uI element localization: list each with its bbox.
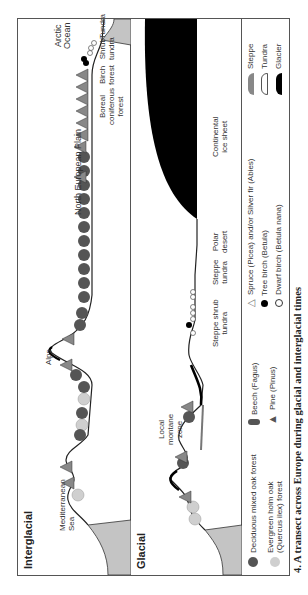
continental-ice-sheet bbox=[145, 19, 197, 219]
mediterranean-sea-shape bbox=[88, 520, 131, 575]
tundra-swatch bbox=[261, 73, 268, 95]
glacial-transect bbox=[131, 19, 242, 575]
label-shrub-tundra: Shrubtundra bbox=[98, 37, 116, 60]
legend-holm-oak: Evergreen holm oak(Quercus ilex) forest bbox=[266, 481, 284, 567]
deciduous-oak-icon bbox=[248, 557, 258, 567]
legend-pine: ▲ Pine (Pinus) bbox=[268, 367, 277, 425]
holm-oak-icon bbox=[270, 557, 280, 567]
spruce-icon: △ bbox=[246, 299, 255, 307]
label-steppe-tundra: Steppetundra bbox=[211, 260, 229, 285]
tree-birch-icon bbox=[261, 300, 268, 307]
tree-birch-markers bbox=[81, 56, 89, 66]
figure-frame: Interglacial bbox=[17, 18, 290, 576]
label-alps: Alps bbox=[44, 349, 53, 365]
glacial-sea-shape bbox=[205, 525, 242, 575]
legend-panel: Deciduous mixed oak forest Evergreen hol… bbox=[242, 19, 290, 575]
legend-dwarf-birch: Dwarf birch (Betula nana) bbox=[274, 204, 283, 307]
glacial-tree-birch bbox=[186, 322, 192, 328]
interglacial-panel: Interglacial bbox=[18, 19, 131, 575]
label-north-european-plain: North European Plain bbox=[74, 129, 83, 215]
legend-beech: Beech (Fagus) bbox=[248, 363, 260, 425]
label-continental-ice-sheet: Continentalice sheet bbox=[211, 117, 229, 157]
legend-glacier: Glacier bbox=[274, 44, 283, 95]
label-polar-desert: Polardesert bbox=[211, 231, 229, 253]
glacial-holm-oaks bbox=[187, 501, 201, 525]
pine-icon: ▲ bbox=[268, 414, 277, 425]
beech-icon bbox=[248, 419, 260, 425]
label-local-montane-zone: Localmontanezone bbox=[157, 414, 184, 445]
steppe-swatch bbox=[248, 73, 254, 95]
figure-rotated: Interglacial bbox=[0, 0, 308, 595]
glacial-terrain-line bbox=[170, 219, 205, 530]
dwarf-birch-icon bbox=[275, 299, 283, 307]
interglacial-terrain-line bbox=[50, 19, 104, 525]
dwarf-birch-markers bbox=[88, 41, 97, 56]
label-boreal-forest: Borealconiferousforest bbox=[98, 88, 125, 125]
label-mediterranean-sea: MediterraneanSea bbox=[58, 479, 76, 531]
label-steppe-shrub-tundra: Steppe shrubtundra bbox=[211, 299, 229, 347]
figure-caption: 4. A transect across Europe during glaci… bbox=[292, 287, 303, 573]
glacier-swatch bbox=[276, 73, 282, 95]
label-arctic-ocean: ArcticOcean bbox=[54, 22, 72, 49]
label-birch-forest: Birchforest bbox=[98, 65, 116, 85]
legend-spruce: △ Spruce (Picea) and/or Silver fir (Abie… bbox=[246, 159, 255, 308]
legend-tundra: Tundra bbox=[260, 44, 269, 95]
legend-steppe: Steppe bbox=[246, 44, 255, 95]
label-tundra: Tundra bbox=[98, 14, 107, 39]
legend-deciduous-oak: Deciduous mixed oak forest bbox=[248, 454, 258, 567]
glacial-panel: Glacial bbox=[131, 19, 242, 575]
legend-tree-birch: Tree birch (Betula) bbox=[260, 230, 269, 307]
montane-steppe-band bbox=[201, 405, 203, 450]
